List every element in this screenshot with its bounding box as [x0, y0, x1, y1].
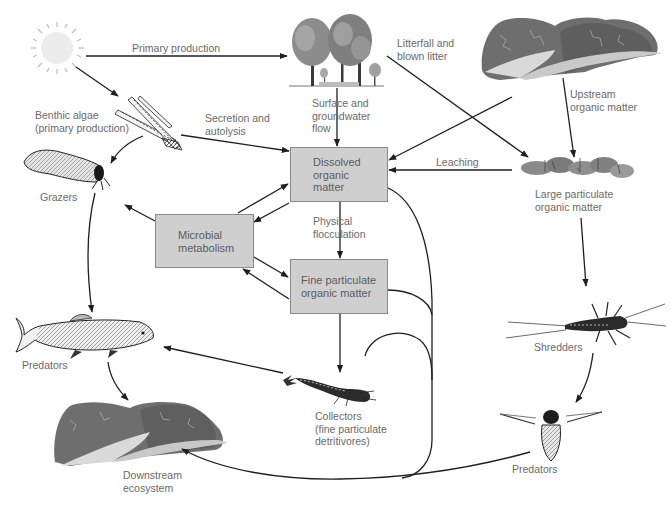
label-litterfall: Litterfall and blown litter [397, 37, 454, 62]
box-dissolved-organic-matter-label: Dissolved organic matter [313, 156, 361, 194]
arrow-export-to-downstream [182, 449, 530, 479]
mountain-stream-icon [482, 18, 663, 80]
box-dissolved-organic-matter: Dissolved organic matter [290, 147, 388, 202]
leaf-litter-icon [521, 157, 634, 178]
label-upstream-organic-matter: Upstream organic matter [570, 88, 637, 113]
label-benthic-algae: Benthic algae (primary production) [35, 109, 129, 134]
label-leaching: Leaching [436, 156, 479, 169]
label-shredders: Shredders [534, 341, 582, 354]
arrow-microbial-to-grazers [125, 205, 155, 221]
arrow-lpom-to-shredders [581, 218, 586, 286]
label-fish-predators: Predators [22, 359, 68, 372]
line-collectors-to-export [365, 333, 432, 380]
label-surface-groundwater-flow: Surface and groundwater flow [312, 97, 370, 135]
label-insect-predators: Predators [512, 463, 558, 476]
box-microbial-metabolism: Microbial metabolism [155, 214, 254, 268]
arrow-shredders-to-predators [576, 353, 593, 402]
box-fine-particulate-organic-matter: Fine particulate organic matter [290, 259, 388, 314]
trout-icon [16, 314, 153, 359]
arrow-microbial-to-dom [238, 184, 288, 213]
label-collectors: Collectors (fine particulate detritivore… [315, 410, 387, 448]
arrow-grazers-to-fish [88, 193, 95, 312]
arrow-fish-to-downstream [108, 362, 128, 400]
label-downstream-ecosystem: Downstream ecosystem [123, 469, 182, 494]
arrow-algae-to-dom [181, 135, 289, 151]
trees-icon [289, 14, 384, 86]
arrow-dom-to-microbial [254, 203, 289, 222]
arrow-microbial-to-fpom [254, 257, 288, 277]
stonefly-nymph-icon [506, 302, 666, 345]
arrow-sun-to-algae [76, 67, 118, 96]
label-large-particulate-organic-matter: Large particulate organic matter [535, 188, 613, 213]
label-grazers: Grazers [40, 191, 77, 204]
box-fpom-label: Fine particulate organic matter [301, 274, 376, 299]
larva-icon [283, 375, 376, 406]
sun-icon [31, 22, 84, 74]
label-secretion-autolysis: Secretion and autolysis [205, 112, 270, 137]
label-primary-production: Primary production [132, 42, 220, 55]
box-microbial-metabolism-label: Microbial metabolism [178, 229, 234, 254]
line-fpom-to-export [388, 290, 432, 315]
downstream-landscape-icon [54, 402, 227, 466]
arrow-collectors-to-fish [164, 347, 283, 373]
water-beetle-icon [500, 410, 602, 461]
arrow-algae-to-grazers [111, 136, 143, 163]
label-physical-flocculation: Physical flocculation [313, 215, 366, 240]
arrow-upstream-to-dom [389, 97, 512, 160]
caddisfly-case-icon [24, 150, 110, 190]
